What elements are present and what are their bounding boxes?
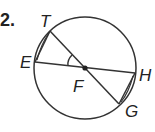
label-g: G xyxy=(125,103,138,120)
label-t: T xyxy=(40,13,50,30)
label-e: E xyxy=(20,54,31,71)
angle-arc-efT xyxy=(68,55,72,66)
label-f: F xyxy=(73,78,83,95)
geometry-figure: 2. T E H F G xyxy=(0,0,155,132)
label-h: H xyxy=(139,67,151,84)
center-point-f xyxy=(82,65,87,70)
